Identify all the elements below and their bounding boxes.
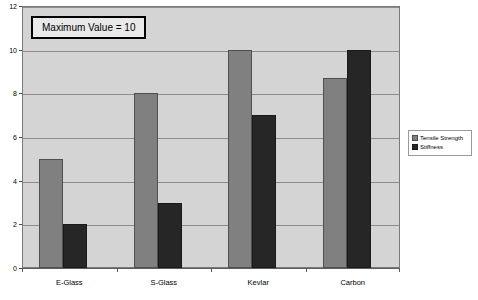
bar-kevlar-tensile-strength[interactable] bbox=[228, 50, 252, 268]
x-tick-label-kevlar: Kevlar bbox=[248, 278, 269, 287]
x-tick-mark-4 bbox=[399, 268, 400, 272]
bar-e-glass-stiffness[interactable] bbox=[63, 224, 87, 268]
x-tick-mark-2 bbox=[211, 268, 212, 272]
x-tick-mark-0 bbox=[22, 268, 23, 272]
x-tick-mark-1 bbox=[117, 268, 118, 272]
legend-item-tensile-strength[interactable]: Tensile Strength bbox=[412, 134, 469, 142]
y-tick-label-2: 2 bbox=[13, 221, 17, 228]
bar-carbon-tensile-strength[interactable] bbox=[323, 78, 347, 268]
bar-s-glass-tensile-strength[interactable] bbox=[134, 93, 158, 268]
y-tick-label-8: 8 bbox=[13, 90, 17, 97]
bars-layer bbox=[22, 6, 400, 268]
bar-kevlar-stiffness[interactable] bbox=[252, 115, 276, 268]
bar-group-carbon bbox=[323, 6, 371, 268]
bar-s-glass-stiffness[interactable] bbox=[158, 203, 182, 269]
legend-label: Stiffness bbox=[420, 143, 443, 151]
bar-e-glass-tensile-strength[interactable] bbox=[39, 159, 63, 268]
annotation-max-value: Maximum Value = 10 bbox=[31, 16, 146, 39]
legend-item-stiffness[interactable]: Stiffness bbox=[412, 143, 469, 151]
y-axis: 024681012 bbox=[0, 0, 22, 276]
bar-group-kevlar bbox=[228, 6, 276, 268]
x-tick-label-carbon: Carbon bbox=[340, 278, 365, 287]
legend-swatch-icon-0 bbox=[412, 135, 418, 141]
y-tick-label-4: 4 bbox=[13, 177, 17, 184]
y-tick-label-10: 10 bbox=[9, 46, 17, 53]
x-tick-label-e-glass: E-Glass bbox=[56, 278, 83, 287]
x-tick-label-s-glass: S-Glass bbox=[150, 278, 177, 287]
bar-chart: 024681012 E-GlassS-GlassKevlarCarbon Max… bbox=[0, 0, 478, 300]
bar-group-s-glass bbox=[134, 6, 182, 268]
x-tick-mark-3 bbox=[306, 268, 307, 272]
chart-legend: Tensile StrengthStiffness bbox=[408, 130, 472, 156]
y-tick-label-12: 12 bbox=[9, 3, 17, 10]
bar-group-e-glass bbox=[39, 6, 87, 268]
legend-label: Tensile Strength bbox=[420, 134, 463, 142]
bar-carbon-stiffness[interactable] bbox=[347, 50, 371, 268]
y-tick-label-6: 6 bbox=[13, 134, 17, 141]
x-axis: E-GlassS-GlassKevlarCarbon bbox=[22, 268, 400, 294]
legend-swatch-icon-1 bbox=[412, 144, 418, 150]
y-tick-label-0: 0 bbox=[13, 265, 17, 272]
